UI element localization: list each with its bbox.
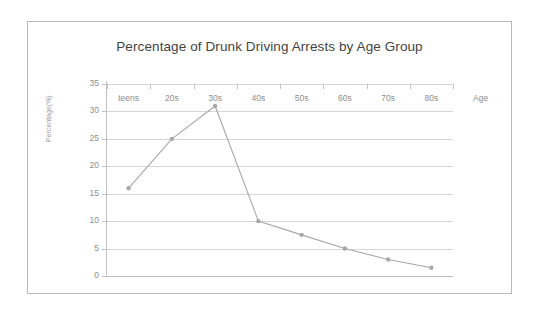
y-axis-tick-label: 10 xyxy=(73,216,99,225)
data-point xyxy=(343,246,347,250)
chart-title: Percentage of Drunk Driving Arrests by A… xyxy=(28,39,511,54)
y-axis-tick-label: 35 xyxy=(73,79,99,88)
x-axis-title: Age xyxy=(473,93,488,103)
y-axis-tick-label: 15 xyxy=(73,189,99,198)
gridline xyxy=(107,276,453,277)
data-series-line xyxy=(107,84,453,276)
y-axis-tick xyxy=(102,276,107,277)
data-point xyxy=(299,233,303,237)
chart-card: Percentage of Drunk Driving Arrests by A… xyxy=(27,21,512,294)
data-point xyxy=(213,104,217,108)
data-point xyxy=(256,219,260,223)
y-axis-tick-label: 30 xyxy=(73,106,99,115)
y-axis-tick-label: 20 xyxy=(73,161,99,170)
series-polyline xyxy=(129,106,432,268)
x-axis-tick xyxy=(453,84,454,89)
y-axis-tick-label: 25 xyxy=(73,134,99,143)
plot-area: Percentage(%) 05101520253035 teens20s30s… xyxy=(107,84,453,276)
y-axis-tick-label: 0 xyxy=(73,271,99,280)
data-point xyxy=(386,257,390,261)
y-axis-title: Percentage(%) xyxy=(45,95,52,142)
data-point xyxy=(126,186,130,190)
y-axis-tick-label: 5 xyxy=(73,244,99,253)
data-point xyxy=(170,137,174,141)
data-point xyxy=(429,266,433,270)
series-markers xyxy=(126,104,433,270)
